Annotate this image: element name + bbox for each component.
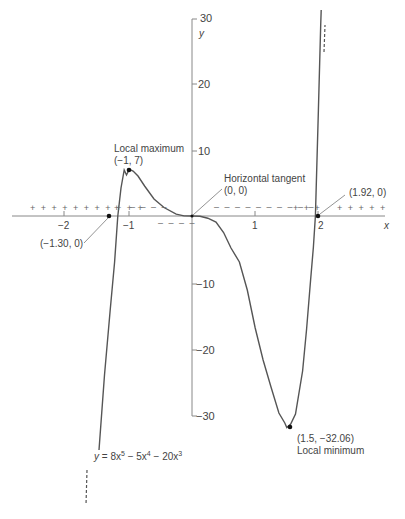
sign-minus-a: – – – –	[130, 202, 168, 212]
sign-plus-left: + + + + + + + + + + +	[30, 203, 144, 213]
x-tick-2: 2	[318, 220, 324, 231]
point-root-pos	[316, 214, 321, 219]
fn-part3: − 20x	[151, 451, 179, 462]
y-axis-label: y	[199, 28, 204, 39]
y-tick-neg30: −30	[196, 410, 215, 422]
point-local-max	[127, 168, 132, 173]
y-tick-30: 30	[200, 12, 212, 24]
local-max-title: Local maximum	[114, 143, 184, 154]
htangent-title: Horizontal tangent	[224, 173, 305, 184]
local-min-title: Local minimum	[297, 445, 364, 456]
point-root-neg	[107, 214, 112, 219]
point-local-min	[288, 425, 293, 430]
root-neg-label: (−1.30, 0)	[40, 238, 83, 249]
fn-part1: = 8x	[99, 451, 121, 462]
y-tick-neg20: −20	[196, 344, 215, 356]
sign-plus-mid: +	[114, 203, 121, 213]
sign-minus-b: – – – –	[158, 218, 196, 228]
y-tick-20: 20	[198, 78, 210, 90]
root-pos-label: (1.92, 0)	[349, 187, 386, 198]
x-tick-neg2: −2	[58, 220, 69, 231]
curve-extension-top	[324, 25, 325, 52]
sign-plus-right: + + + + +	[337, 203, 387, 213]
htangent-coords: (0, 0)	[224, 185, 247, 196]
y-tick-10: 10	[198, 145, 210, 157]
x-tick-neg1: −1	[123, 220, 134, 231]
fn-exp3: 3	[178, 450, 182, 457]
local-max-coords: (−1, 7)	[114, 155, 143, 166]
fn-part2: − 5x	[125, 451, 147, 462]
x-axis-label: x	[384, 220, 389, 231]
sign-plus-c: + + +	[293, 203, 321, 213]
local-min-coords: (1.5, −32.06)	[297, 433, 354, 444]
curve-extension-bottom	[86, 470, 87, 505]
function-label: y = 8x5 − 5x4 − 20x3	[94, 448, 182, 462]
leader-root-neg	[84, 218, 108, 243]
y-tick-neg10: −10	[196, 278, 215, 290]
x-tick-1: 1	[252, 220, 258, 231]
